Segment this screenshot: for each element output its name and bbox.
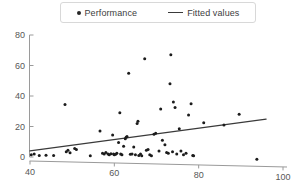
scatter-point [179,149,182,152]
scatter-point [136,120,139,123]
scatter-point [30,153,33,156]
scatter-point [120,153,123,156]
scatter-point [127,72,130,75]
scatter-point [171,150,174,153]
scatter-point [202,121,205,124]
scatter-point [158,149,161,152]
fitted-values-line [30,119,266,151]
chart-figure: 020406080406080100 Performance Fitted va… [0,0,296,184]
scatter-point [45,154,48,157]
scatter-point [255,158,258,161]
scatter-point [118,111,121,114]
scatter-point [168,82,171,85]
scatter-point [132,146,135,149]
scatter-point [131,152,134,155]
fitted-line [30,119,266,151]
legend-label-performance: Performance [85,8,138,18]
scatter-point [192,154,195,157]
scatter-point [109,152,112,155]
scatter-point [154,132,157,135]
scatter-point [159,107,162,110]
scatter-point [63,103,66,106]
scatter-point [178,127,181,130]
scatter-point [187,114,190,117]
tick-labels-group: 020406080406080100 [15,30,291,182]
scatter-point [125,135,128,138]
scatter-point [66,149,69,152]
scatter-point [167,152,170,155]
y-axis-tick-label: 0 [20,152,25,162]
scatter-point [222,123,225,126]
scatter-point [38,154,41,157]
legend-entry-performance: Performance [77,8,138,18]
x-axis-tick-label: 40 [25,167,35,177]
scatter-point [117,141,120,144]
scatter-point [174,106,177,109]
scatter-point [238,113,241,116]
scatter-point [163,143,166,146]
y-axis-tick-label: 80 [15,30,25,40]
y-axis-tick-label: 60 [15,61,25,71]
scatter-point [52,154,55,157]
scatter-point [140,154,143,157]
scatter-plot-svg: 020406080406080100 [0,0,296,184]
scatter-point [134,153,137,156]
scatter-point [111,133,114,136]
scatter-point [33,152,36,155]
scatter-point [75,148,78,151]
chart-legend: Performance Fitted values [60,2,256,23]
legend-label-fitted-values: Fitted values [187,8,239,18]
scatter-point [122,145,125,148]
scatter-point [161,139,164,142]
scatter-point [69,151,72,154]
scatter-point [143,57,146,60]
scatter-points [30,53,259,160]
x-axis-line [30,161,288,167]
x-axis-tick-label: 60 [109,168,119,178]
scatter-point [175,152,178,155]
scatter-point [147,148,150,151]
x-axis-tick-label: 80 [194,170,204,180]
x-axis-tick-label: 100 [275,172,290,182]
scatter-point [172,101,175,104]
scatter-point [182,153,185,156]
scatter-point [98,130,101,133]
y-axis-tick-label: 40 [15,91,25,101]
y-axis-tick-label: 20 [15,122,25,132]
legend-entry-fitted-values: Fitted values [168,8,239,18]
scatter-point [89,154,92,157]
scatter-point [150,154,153,157]
line-marker-icon [168,12,183,13]
scatter-point [190,102,193,105]
scatter-point [169,53,172,56]
circle-marker-icon [77,11,81,15]
scatter-point [185,152,188,155]
scatter-point [115,152,118,155]
